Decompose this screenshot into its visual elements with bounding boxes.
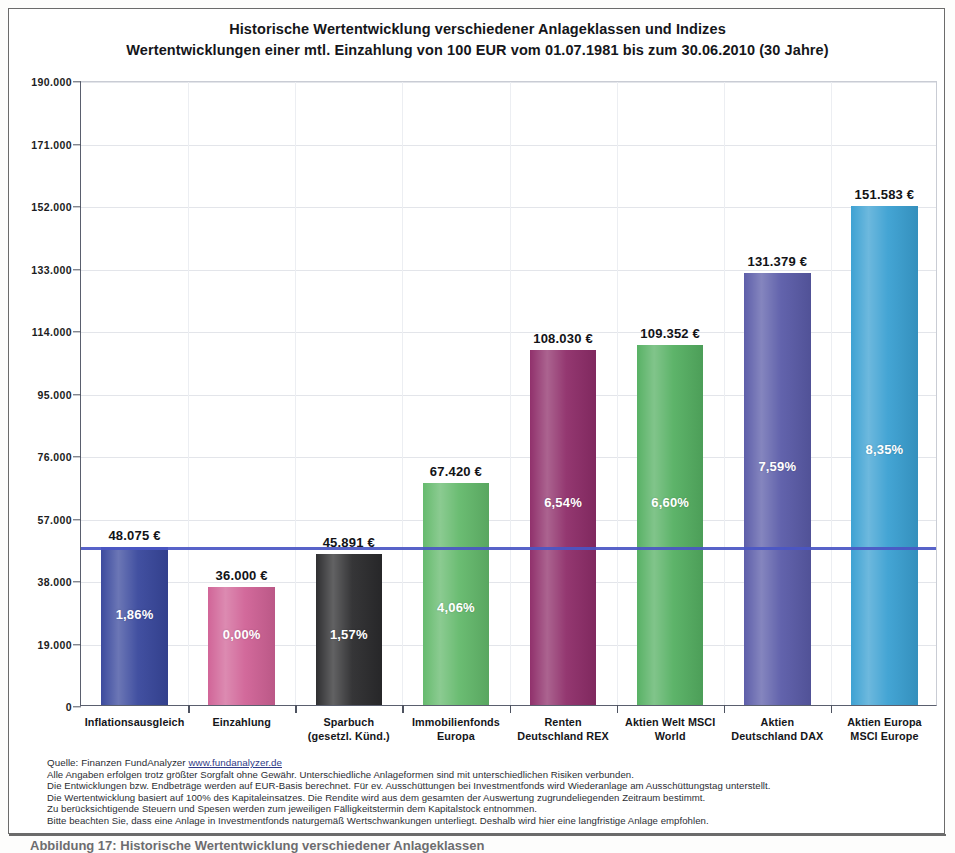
- chart-title-block: Historische Wertentwicklung verschiedene…: [9, 19, 946, 61]
- footnote-line: Zu berücksichtigende Steuern und Spesen …: [47, 803, 927, 815]
- bar-7[interactable]: 131.379 €: [744, 273, 810, 705]
- x-axis-label-6: Aktien Welt MSCI World: [617, 715, 724, 743]
- source-note: Quelle: Finanzen FundAnalyzer www.fundan…: [47, 757, 927, 769]
- x-axis-label-4: Immobilienfonds Europa: [402, 715, 509, 743]
- page-frame: Historische Wertentwicklung verschiedene…: [8, 8, 945, 834]
- bar-5[interactable]: 108.030 €: [530, 350, 596, 705]
- category-separator: [831, 82, 832, 705]
- y-axis-tick: [73, 519, 81, 520]
- bar-percent-label: 1,86%: [116, 607, 154, 622]
- x-axis-tick: [617, 705, 618, 713]
- category-separator: [617, 82, 618, 705]
- footnote-line: Bitte beachten Sie, dass eine Anlage in …: [47, 815, 927, 827]
- y-axis-label: 190.000: [31, 76, 72, 88]
- footnotes: Quelle: Finanzen FundAnalyzer www.fundan…: [47, 757, 927, 827]
- y-axis-label: 171.000: [31, 139, 72, 151]
- bar-value-label: 131.379 €: [747, 254, 807, 269]
- x-axis-tick: [295, 705, 296, 713]
- bar-1[interactable]: 48.075 €: [101, 547, 167, 705]
- y-axis-label: 57.000: [37, 514, 72, 526]
- gridline: [81, 82, 936, 83]
- bar-6[interactable]: 109.352 €: [637, 345, 703, 705]
- x-axis-label-1: Inflationsausgleich: [81, 715, 188, 729]
- category-separator: [510, 82, 511, 705]
- x-axis-tick: [188, 705, 189, 713]
- bar-value-label: 67.420 €: [430, 464, 482, 479]
- bar-percent-label: 4,06%: [437, 600, 475, 615]
- bar-value-label: 109.352 €: [640, 326, 700, 341]
- y-axis-tick: [73, 706, 81, 707]
- y-axis-tick: [73, 394, 81, 395]
- bar-4[interactable]: 67.420 €: [423, 483, 489, 705]
- footnote-line: Alle Angaben erfolgen trotz größter Sorg…: [47, 769, 927, 781]
- y-axis-label: 133.000: [31, 264, 72, 276]
- chart-page: Historische Wertentwicklung verschiedene…: [0, 0, 955, 853]
- source-link[interactable]: www.fundanalyzer.de: [188, 757, 282, 768]
- y-axis-label: 38.000: [37, 576, 72, 588]
- footnote-line: Die Entwicklungen bzw. Endbeträge werden…: [47, 780, 927, 792]
- y-axis-tick: [73, 269, 81, 270]
- bar-value-label: 151.583 €: [855, 187, 915, 202]
- bar-gloss: [744, 273, 810, 705]
- bar-chart: 190.000171.000152.000133.000114.00095.00…: [80, 81, 937, 706]
- x-axis-label-7: Aktien Deutschland DAX: [724, 715, 831, 743]
- y-axis-label: 76.000: [37, 451, 72, 463]
- category-separator: [724, 82, 725, 705]
- y-axis-label: 152.000: [31, 201, 72, 213]
- bar-value-label: 36.000 €: [216, 568, 268, 583]
- source-prefix: Quelle: Finanzen FundAnalyzer: [47, 757, 188, 768]
- gridline: [81, 270, 936, 271]
- y-axis-tick: [73, 144, 81, 145]
- y-axis-tick: [73, 456, 81, 457]
- bar-2[interactable]: 36.000 €: [208, 587, 274, 705]
- bar-percent-label: 7,59%: [758, 459, 796, 474]
- bar-gloss: [423, 483, 489, 705]
- y-axis-label: 114.000: [32, 326, 72, 338]
- y-axis-label: 95.000: [37, 389, 72, 401]
- figure-caption: Abbildung 17: Historische Wertentwicklun…: [30, 838, 930, 853]
- x-axis-tick: [831, 705, 832, 713]
- bar-percent-label: 6,54%: [544, 495, 582, 510]
- bar-value-label: 108.030 €: [533, 331, 593, 346]
- x-axis-tick: [724, 705, 725, 713]
- x-axis-tick: [402, 705, 403, 713]
- x-axis-label-5: Renten Deutschland REX: [510, 715, 617, 743]
- bar-gloss: [101, 547, 167, 705]
- y-axis-tick: [73, 644, 81, 645]
- bar-percent-label: 6,60%: [651, 495, 689, 510]
- benchmark-line: [81, 547, 936, 550]
- gridline: [81, 145, 936, 146]
- category-separator: [188, 82, 189, 705]
- x-axis-tick: [510, 705, 511, 713]
- y-axis-tick: [73, 581, 81, 582]
- y-axis-label: 19.000: [37, 639, 72, 651]
- gridline: [81, 207, 936, 208]
- category-separator: [295, 82, 296, 705]
- page-divider: [9, 834, 946, 836]
- x-axis-label-3: Sparbuch (gesetzl. Künd.): [295, 715, 402, 743]
- bar-value-label: 48.075 €: [108, 528, 160, 543]
- x-axis-label-2: Einzahlung: [188, 715, 295, 729]
- bar-percent-label: 8,35%: [866, 442, 904, 457]
- page-title: Historische Wertentwicklung verschiedene…: [9, 19, 946, 40]
- y-axis-tick: [73, 206, 81, 207]
- y-axis-label: 0: [66, 701, 72, 713]
- bar-gloss: [530, 350, 596, 705]
- bar-percent-label: 1,57%: [330, 627, 368, 642]
- bar-gloss: [637, 345, 703, 705]
- bar-gloss: [208, 587, 274, 705]
- y-axis-tick: [73, 331, 81, 332]
- plot-area: 190.000171.000152.000133.000114.00095.00…: [80, 81, 937, 706]
- page-subtitle: Wertentwicklungen einer mtl. Einzahlung …: [9, 40, 946, 61]
- footnote-line: Die Wertentwicklung basiert auf 100% des…: [47, 792, 927, 804]
- category-separator: [402, 82, 403, 705]
- x-axis-label-8: Aktien Europa MSCI Europe: [831, 715, 938, 743]
- y-axis-tick: [73, 81, 81, 82]
- bar-percent-label: 0,00%: [223, 627, 261, 642]
